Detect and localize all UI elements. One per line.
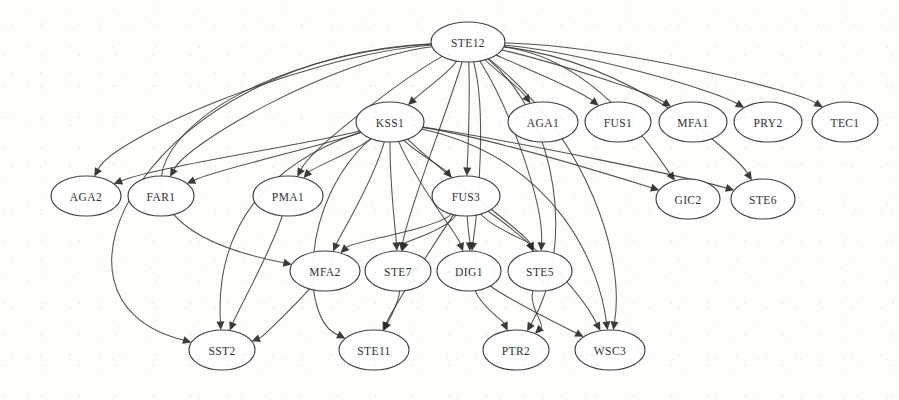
edge-arrowhead [283, 259, 292, 267]
graph-node-ste12[interactable]: STE12 [431, 22, 505, 62]
edge-arrowhead [527, 322, 535, 331]
edge-arrowhead [535, 325, 544, 334]
graph-node-gic2[interactable]: GIC2 [656, 179, 720, 219]
node-label: PRY2 [753, 117, 782, 129]
graph-node-aga2[interactable]: AGA2 [51, 176, 121, 216]
edge-arrowhead [170, 167, 178, 176]
node-label: KSS1 [376, 117, 404, 129]
node-label: TEC1 [830, 117, 859, 129]
node-label: WSC3 [594, 345, 626, 357]
network-graph-figure: STE12KSS1AGA1FUS1MFA1PRY2TEC1AGA2FAR1PMA… [0, 0, 899, 400]
graph-edge [405, 215, 456, 243]
node-label: FAR1 [147, 191, 176, 203]
graph-edge [481, 214, 530, 244]
graph-node-dig1[interactable]: DIG1 [437, 251, 501, 291]
graph-edge [195, 133, 362, 180]
graph-node-ste6[interactable]: STE6 [731, 179, 795, 219]
node-label: SST2 [208, 345, 235, 357]
graph-edge [467, 216, 470, 243]
node-label: PTR2 [502, 345, 530, 357]
nodes-layer: STE12KSS1AGA1FUS1MFA1PRY2TEC1AGA2FAR1PMA… [51, 22, 878, 370]
graph-edge [122, 131, 360, 181]
edge-arrowhead [667, 172, 675, 181]
node-label: AGA2 [70, 191, 102, 203]
graph-node-pma1[interactable]: PMA1 [253, 176, 323, 216]
edge-arrowhead [216, 321, 224, 330]
node-label: GIC2 [674, 194, 701, 206]
edge-arrowhead [401, 242, 409, 251]
graph-edge [337, 142, 385, 244]
edge-arrowhead [590, 97, 599, 105]
node-label: STE7 [384, 266, 412, 278]
graph-node-far1[interactable]: FAR1 [128, 176, 194, 216]
graph-edge [309, 139, 371, 172]
node-label: PMA1 [272, 191, 304, 203]
edge-arrowhead [252, 334, 261, 342]
graph-edge [313, 139, 371, 335]
graph-node-ste11[interactable]: STE11 [339, 330, 409, 370]
graph-edge [480, 61, 542, 243]
graph-node-wsc3[interactable]: WSC3 [575, 330, 645, 370]
graph-node-ste5[interactable]: STE5 [508, 251, 572, 291]
graph-node-sst2[interactable]: SST2 [189, 330, 255, 370]
graph-node-fus1[interactable]: FUS1 [585, 102, 651, 142]
edge-arrowhead [340, 244, 349, 253]
edge-arrowhead [611, 321, 619, 330]
node-label: STE5 [526, 266, 554, 278]
edge-arrowhead [813, 99, 822, 107]
graph-node-ptr2[interactable]: PTR2 [483, 330, 549, 370]
graph-edge [390, 142, 396, 243]
graph-node-kss1[interactable]: KSS1 [356, 102, 424, 142]
edge-arrowhead [662, 99, 671, 107]
graph-canvas: STE12KSS1AGA1FUS1MFA1PRY2TEC1AGA2FAR1PMA… [0, 0, 899, 400]
edge-arrowhead [725, 184, 734, 192]
graph-node-fus3[interactable]: FUS3 [432, 176, 500, 216]
graph-edge [220, 132, 361, 321]
graph-edge [161, 44, 431, 263]
graph-edge [233, 216, 282, 323]
node-label: MFA1 [677, 117, 708, 129]
graph-node-aga1[interactable]: AGA1 [508, 102, 578, 142]
edge-arrowhead [182, 336, 191, 344]
graph-node-tec1[interactable]: TEC1 [812, 102, 878, 142]
graph-node-mfa2[interactable]: MFA2 [290, 251, 360, 291]
edge-arrowhead [463, 167, 471, 176]
graph-edge [387, 291, 399, 323]
graph-node-pry2[interactable]: PRY2 [734, 102, 802, 142]
graph-edge [475, 291, 504, 323]
edge-arrowhead [744, 171, 752, 180]
edge-arrowhead [392, 242, 400, 251]
node-label: STE12 [451, 37, 485, 49]
node-label: FUS1 [604, 117, 632, 129]
graph-edge [414, 61, 456, 99]
graph-edge [532, 291, 542, 328]
graph-edge [467, 62, 469, 168]
node-label: DIG1 [455, 266, 483, 278]
edge-arrowhead [602, 321, 610, 330]
edge-arrowhead [538, 242, 546, 251]
edge-arrowhead [650, 184, 659, 192]
node-label: STE11 [357, 345, 391, 357]
node-label: FUS3 [452, 191, 480, 203]
edge-arrowhead [735, 100, 744, 108]
graph-node-mfa1[interactable]: MFA1 [659, 102, 727, 142]
node-label: STE6 [749, 194, 777, 206]
graph-node-ste7[interactable]: STE7 [365, 251, 431, 291]
edge-arrowhead [456, 242, 464, 251]
graph-edge [260, 289, 310, 338]
node-label: AGA1 [527, 117, 559, 129]
node-label: MFA2 [309, 266, 340, 278]
